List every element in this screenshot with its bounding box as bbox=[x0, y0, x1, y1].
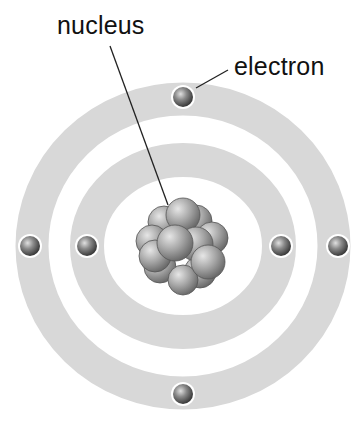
nucleus-label: nucleus bbox=[57, 11, 145, 40]
electron-label: electron bbox=[234, 52, 325, 81]
nucleus bbox=[136, 198, 228, 295]
